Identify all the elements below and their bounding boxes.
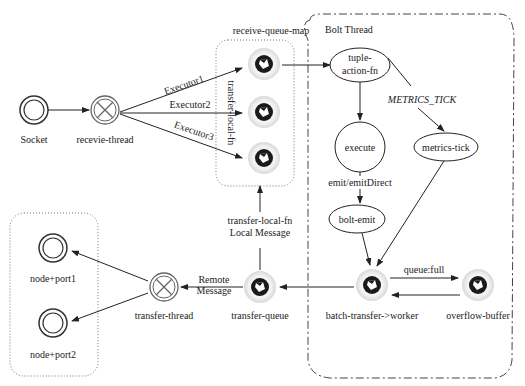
storm-message-flow-diagram: receive-queue-map Bolt Thread Socket rec… bbox=[0, 0, 525, 386]
svg-text:tuple-: tuple- bbox=[348, 52, 371, 63]
receive-queue-3-icon bbox=[248, 142, 280, 174]
svg-text:recevie-thread: recevie-thread bbox=[76, 134, 133, 145]
to-port1-edge bbox=[72, 251, 148, 281]
svg-text:Message: Message bbox=[197, 285, 233, 296]
node-port1: node+port1 bbox=[30, 234, 76, 284]
svg-text:overflow-buffer: overflow-buffer bbox=[446, 310, 510, 321]
svg-text:emit/emitDirect: emit/emitDirect bbox=[328, 177, 392, 188]
svg-text:metrics-tick: metrics-tick bbox=[422, 142, 470, 153]
svg-text:transfer-thread: transfer-thread bbox=[135, 310, 194, 321]
bolt-emit-node: bolt-emit bbox=[329, 205, 385, 233]
svg-text:node+port1: node+port1 bbox=[30, 273, 76, 284]
svg-text:bolt-emit: bolt-emit bbox=[339, 214, 376, 225]
execute-node: execute bbox=[335, 122, 385, 172]
bolt-thread-group: Bolt Thread bbox=[304, 14, 514, 378]
transfer-local-fn-vertical-label: transfer-local-fn bbox=[226, 81, 237, 146]
svg-text:Remote: Remote bbox=[198, 274, 230, 285]
svg-text:transfer-local-fn: transfer-local-fn bbox=[228, 215, 293, 226]
svg-text:batch-transfer->worker: batch-transfer->worker bbox=[326, 310, 419, 321]
svg-text:Executor3: Executor3 bbox=[173, 119, 215, 143]
svg-text:Local Message: Local Message bbox=[230, 227, 291, 238]
transfer-thread-node: transfer-thread bbox=[135, 273, 194, 321]
metrics-edge-top bbox=[388, 58, 411, 86]
batch-transfer-icon bbox=[356, 269, 388, 301]
receive-queue-map-label: receive-queue-map bbox=[233, 25, 310, 36]
svg-text:Executor2: Executor2 bbox=[169, 99, 210, 110]
tuple-action-fn-node: tuple- action-fn bbox=[330, 48, 390, 82]
receive-thread-node: recevie-thread bbox=[76, 96, 133, 145]
svg-text:Executor1: Executor1 bbox=[163, 73, 205, 97]
metrics-tick-node: metrics-tick bbox=[414, 133, 478, 161]
receive-queue-2-icon bbox=[248, 96, 280, 128]
receive-queue-1-icon bbox=[248, 48, 280, 80]
svg-text:execute: execute bbox=[345, 142, 376, 153]
transfer-queue-icon bbox=[244, 271, 276, 303]
metrics-edge-bottom bbox=[418, 108, 444, 131]
socket-node: Socket bbox=[20, 96, 48, 145]
svg-text:action-fn: action-fn bbox=[342, 65, 378, 76]
svg-text:Socket: Socket bbox=[20, 134, 47, 145]
svg-text:queue:full: queue:full bbox=[404, 264, 445, 275]
overflow-buffer-icon bbox=[462, 269, 494, 301]
svg-text:node+port2: node+port2 bbox=[30, 349, 76, 360]
svg-text:METRICS_TICK: METRICS_TICK bbox=[387, 94, 458, 105]
bolt-emit-to-batch-edge bbox=[362, 233, 370, 265]
bolt-thread-label: Bolt Thread bbox=[325, 24, 373, 35]
node-port2: node+port2 bbox=[30, 309, 76, 360]
svg-text:transfer-queue: transfer-queue bbox=[231, 310, 289, 321]
